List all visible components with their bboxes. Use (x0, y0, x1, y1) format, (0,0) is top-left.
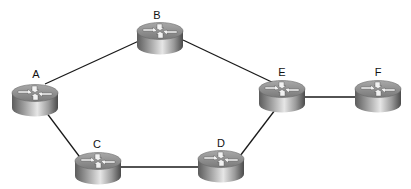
link-a-b (45, 40, 141, 84)
router-icon-b (137, 23, 183, 55)
node-label-a: A (32, 69, 39, 80)
router-icon-e (259, 81, 305, 113)
router-icon-c (75, 153, 121, 185)
node-label-c: C (93, 139, 101, 150)
link-a-c (46, 112, 82, 160)
router-icon-f (355, 81, 401, 113)
network-diagram (0, 0, 411, 189)
link-d-e (240, 110, 275, 156)
router-icon-a (12, 85, 58, 117)
node-label-b: B (153, 10, 160, 21)
nodes-layer (12, 23, 401, 185)
node-label-f: F (375, 67, 382, 78)
links-layer (45, 40, 356, 167)
node-label-e: E (278, 67, 285, 78)
link-b-e (183, 40, 276, 84)
node-label-d: D (217, 138, 225, 149)
router-icon-d (198, 151, 244, 183)
